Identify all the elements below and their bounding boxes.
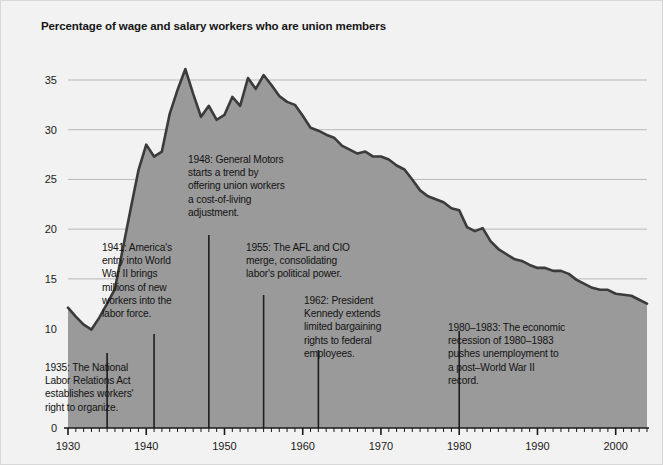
x-axis-labels: 19301940195019601970198019902000 (56, 440, 628, 452)
x-tick-label: 1980 (447, 440, 471, 452)
y-tick-label: 20 (45, 223, 57, 235)
y-tick-label: 0 (51, 422, 57, 434)
x-tick-label: 2000 (603, 440, 627, 452)
annotation-1948: 1948: General Motors starts a trend by o… (188, 153, 285, 219)
x-tick-label: 1960 (290, 440, 314, 452)
y-tick-label: 25 (45, 173, 57, 185)
annotation-1955: 1955: The AFL and CIO merge, consolidati… (246, 241, 350, 281)
x-tick-label: 1940 (134, 440, 158, 452)
annotation-1980: 1980–1983: The economic recession of 198… (448, 321, 565, 387)
x-axis (64, 428, 649, 435)
x-tick-label: 1970 (369, 440, 393, 452)
y-tick-label: 35 (45, 74, 57, 86)
y-tick-label: 30 (45, 124, 57, 136)
y-tick-label: 15 (45, 273, 57, 285)
annotation-1935: 1935: The National Labor Relations Act e… (45, 361, 133, 414)
annotation-1941: 1941: America's entry into World War II … (102, 241, 172, 320)
annotation-1962: 1962: President Kennedy extends limited … (304, 294, 381, 360)
x-tick-label: 1990 (525, 440, 549, 452)
y-tick-label: 10 (45, 323, 57, 335)
x-tick-label: 1950 (212, 440, 236, 452)
chart-figure: Percentage of wage and salary workers wh… (0, 0, 663, 465)
x-tick-label: 1930 (56, 440, 80, 452)
